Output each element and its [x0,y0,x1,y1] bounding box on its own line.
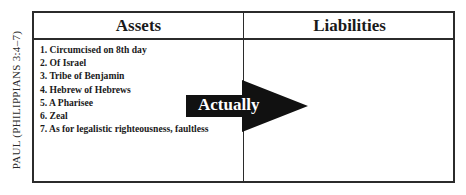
list-item: 3. Tribe of Benjamin [40,69,209,82]
assets-list: 1. Circumcised on 8th day 2. Of Israel 3… [40,43,209,135]
list-item: 4. Hebrew of Hebrews [40,83,209,96]
side-label: PAUL (PHILIPPIANS 3:4–7) [4,20,28,180]
list-item: 6. Zeal [40,109,209,122]
list-item: 1. Circumcised on 8th day [40,43,209,56]
list-item: 2. Of Israel [40,56,209,69]
list-item: 7. As for legalistic righteousness, faul… [40,122,209,135]
liabilities-header: Liabilities [244,13,455,38]
list-item: 5. A Pharisee [40,96,209,109]
arrow-label: Actually [198,95,288,115]
assets-header: Assets [34,13,243,38]
side-label-text: PAUL (PHILIPPIANS 3:4–7) [10,31,22,169]
